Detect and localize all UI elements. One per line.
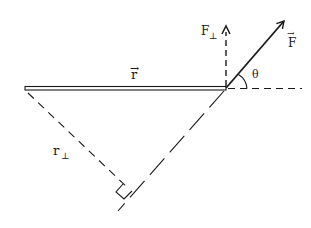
rod-r-vector <box>25 87 226 91</box>
f-perp-subscript: ⊥ <box>209 31 217 41</box>
label-r-perp: r ⊥ <box>53 143 69 161</box>
theta-angle-arc <box>239 75 248 89</box>
label-f-perp: F ⊥ <box>201 24 217 41</box>
r-vector-text: r <box>131 67 138 82</box>
right-angle-marker-icon <box>116 184 132 199</box>
label-f-vector: → F <box>287 28 296 50</box>
r-perp-text: r <box>53 143 60 158</box>
r-perp-lever-arm-dashed-line <box>28 93 129 189</box>
theta-label: θ <box>252 68 259 81</box>
torque-diagram: → r r ⊥ F ⊥ → F θ <box>0 0 311 228</box>
line-of-action-dashed-line <box>118 91 224 211</box>
r-perp-subscript: ⊥ <box>61 151 69 161</box>
label-r-vector: → r <box>130 62 139 82</box>
f-vector-text: F <box>288 36 296 50</box>
